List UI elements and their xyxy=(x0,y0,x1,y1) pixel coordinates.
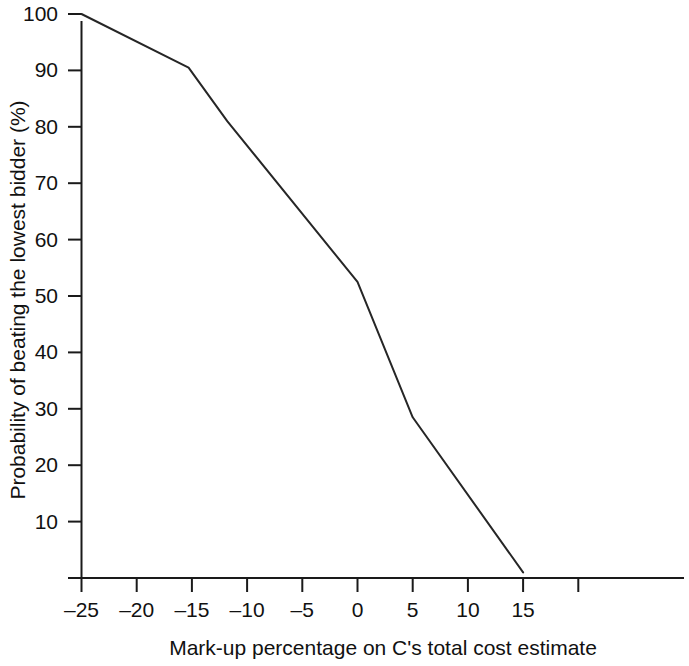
data-series-line xyxy=(82,14,524,572)
y-tick-label-50: 50 xyxy=(35,284,58,307)
x-tick-label-15: 15 xyxy=(511,598,534,621)
y-axis-tick-group xyxy=(68,14,82,578)
x-tick-label-0: 0 xyxy=(352,598,364,621)
y-tick-label-20: 20 xyxy=(35,453,58,476)
x-tick-label--10: –10 xyxy=(230,598,265,621)
x-axis-title: Mark-up percentage on C's total cost est… xyxy=(169,636,597,659)
x-axis-tick-labels: –25–20–15–10–5051015 xyxy=(64,598,535,621)
chart-figure: 102030405060708090100 –25–20–15–10–50510… xyxy=(0,0,689,666)
y-tick-label-10: 10 xyxy=(35,510,58,533)
x-axis-tick-group xyxy=(82,578,579,592)
y-axis-title: Probability of beating the lowest bidder… xyxy=(6,100,29,499)
x-tick-label--25: –25 xyxy=(64,598,99,621)
x-tick-label--5: –5 xyxy=(291,598,314,621)
y-tick-label-60: 60 xyxy=(35,228,58,251)
y-tick-label-30: 30 xyxy=(35,397,58,420)
y-tick-label-90: 90 xyxy=(35,58,58,81)
y-tick-label-40: 40 xyxy=(35,340,58,363)
x-tick-label--15: –15 xyxy=(174,598,209,621)
y-tick-label-70: 70 xyxy=(35,171,58,194)
y-tick-label-100: 100 xyxy=(23,2,58,25)
chart-plot-area: 102030405060708090100 –25–20–15–10–50510… xyxy=(0,0,689,666)
y-tick-label-80: 80 xyxy=(35,115,58,138)
x-tick-label-5: 5 xyxy=(407,598,419,621)
x-tick-label--20: –20 xyxy=(119,598,154,621)
x-tick-label-10: 10 xyxy=(456,598,479,621)
